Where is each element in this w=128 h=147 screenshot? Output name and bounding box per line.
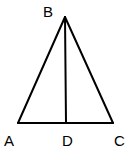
- label-c: C: [114, 132, 125, 147]
- label-d: D: [62, 132, 73, 147]
- triangle-diagram: B A D C: [0, 0, 128, 147]
- segment-bd: [65, 17, 66, 123]
- segment-ab: [18, 17, 65, 123]
- segment-bc: [65, 17, 113, 123]
- label-a: A: [4, 132, 14, 147]
- label-b: B: [43, 3, 53, 20]
